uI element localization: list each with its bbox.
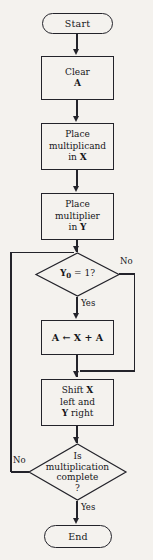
- arrowhead-placey: [73, 186, 79, 192]
- node-test-y0: Y0 = 1?: [35, 252, 120, 297]
- arrowhead-placex: [73, 116, 79, 122]
- edge-y0-no-return: [80, 370, 135, 371]
- node-shift-line3: Y right: [62, 408, 94, 420]
- edge-label-y0-no: No: [120, 256, 133, 266]
- edge-label-y0-yes: Yes: [81, 298, 95, 308]
- node-test-complete-line3: complete: [28, 472, 127, 483]
- node-add: A ← X + A: [41, 320, 114, 355]
- edge-done-no-return: [10, 252, 74, 253]
- edge-label-done-no: No: [13, 455, 26, 465]
- node-test-complete-line4: ?: [28, 483, 127, 494]
- edge-label-done-yes: Yes: [81, 502, 95, 512]
- node-shift: Shift X left and Y right: [41, 379, 114, 426]
- arrowhead-add: [73, 313, 79, 319]
- node-clear-line2: A: [74, 78, 81, 90]
- node-place-multiplicand-line3: in X: [68, 152, 87, 164]
- node-place-multiplier-line2: multiplier: [55, 211, 100, 223]
- edge-y0-no-vertical: [134, 273, 135, 371]
- edge-placex-to-placey: [76, 170, 77, 187]
- node-test-complete-label: Is multiplication complete ?: [28, 451, 127, 493]
- node-start-label: Start: [65, 18, 90, 29]
- node-start: Start: [42, 13, 113, 34]
- edge-done-no-horizontal: [11, 471, 29, 472]
- node-shift-line2: left and: [60, 397, 95, 409]
- node-test-y0-label: Y0 = 1?: [35, 268, 120, 282]
- edge-y0-no-horizontal: [119, 273, 135, 274]
- arrowhead-clear: [73, 49, 79, 55]
- node-place-multiplicand-line1: Place: [65, 129, 90, 141]
- node-clear: Clear A: [41, 56, 114, 100]
- flowchart-canvas: Start Clear A Place multiplicand in X Pl…: [0, 0, 153, 560]
- arrowhead-end: [73, 518, 79, 524]
- node-place-multiplicand-line2: multiplicand: [49, 141, 106, 153]
- edge-clear-to-placex: [76, 100, 77, 117]
- edge-y0-yes-vertical: [76, 297, 77, 314]
- node-test-complete-line1: Is: [28, 451, 127, 462]
- node-test-complete-line2: multiplication: [28, 462, 127, 473]
- edge-done-no-vertical: [10, 252, 11, 472]
- node-clear-line1: Clear: [65, 67, 90, 79]
- node-shift-line1: Shift X: [62, 385, 94, 397]
- node-test-complete: Is multiplication complete ?: [28, 443, 127, 501]
- edge-start-to-clear: [76, 34, 77, 50]
- node-end-label: End: [68, 531, 88, 542]
- node-place-multiplier: Place multiplier in Y: [41, 193, 114, 240]
- node-place-multiplier-line1: Place: [65, 199, 90, 211]
- node-add-label: A ← X + A: [52, 332, 103, 344]
- node-place-multiplier-line3: in Y: [69, 222, 87, 234]
- arrowhead-shift: [73, 371, 79, 377]
- node-place-multiplicand: Place multiplicand in X: [41, 123, 114, 170]
- node-end: End: [44, 525, 112, 548]
